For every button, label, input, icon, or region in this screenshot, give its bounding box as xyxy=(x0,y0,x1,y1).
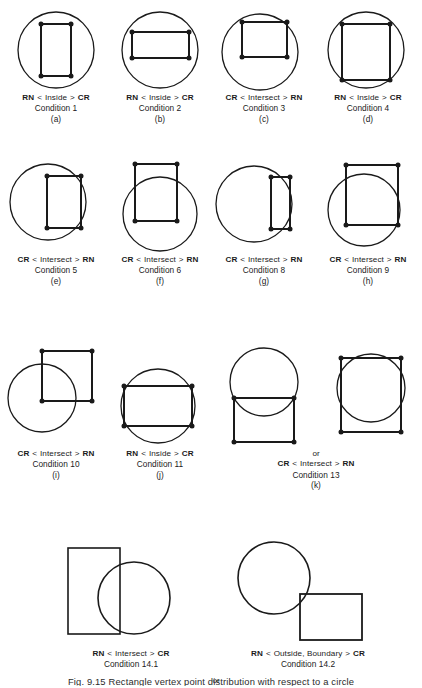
right-code-c: RN xyxy=(291,93,303,102)
relation-line-b: RN < Inside > CR xyxy=(110,93,210,103)
diagram-14-2 xyxy=(228,536,388,648)
less-than-j: < xyxy=(141,449,147,458)
caption-c: CR < Intersect > RN Condition 3 (c) xyxy=(214,93,314,125)
right-code-14-1: CR xyxy=(158,649,170,658)
caption-i: CR < Intersect > RN Condition 10 (i) xyxy=(6,449,106,481)
condition-label-j: Condition 11 xyxy=(110,459,210,470)
condition-label-h: Condition 9 xyxy=(318,265,418,276)
panel-j: RN < Inside > CR Condition 11 (j) xyxy=(110,338,210,481)
left-code-i: CR xyxy=(17,449,29,458)
circle-shape xyxy=(328,174,400,246)
less-than-i: < xyxy=(32,449,38,458)
relation-b: Inside xyxy=(149,93,171,102)
less-than-a: < xyxy=(37,93,43,102)
panel-letter-g: (g) xyxy=(214,276,314,287)
rectangle-shape xyxy=(341,358,401,432)
panel-letter-c: (c) xyxy=(214,114,314,125)
figure-sheet: RN < Inside > CR Condition 1 (a) RN xyxy=(0,0,422,688)
greater-than-d: > xyxy=(381,93,387,102)
rectangle-shape xyxy=(42,351,92,401)
left-code-b: RN xyxy=(126,93,138,102)
condition-label-g: Condition 8 xyxy=(214,265,314,276)
left-code-14-1: RN xyxy=(92,649,104,658)
diagram-a-svg xyxy=(6,4,106,92)
panel-letter-j: (j) xyxy=(110,470,210,481)
caption-k: or CR < Intersect > RN Condition 13 (k) xyxy=(214,449,418,491)
greater-than-h: > xyxy=(386,255,392,264)
less-than-14-1: < xyxy=(107,649,113,658)
condition-label-k: Condition 13 xyxy=(214,470,418,481)
rectangle-shape xyxy=(346,165,398,225)
condition-label-14-1: Condition 14.1 xyxy=(56,659,206,670)
relation-line-g: CR < Intersect > RN xyxy=(214,255,314,265)
panel-letter-e: (e) xyxy=(6,276,106,287)
rectangle-shape xyxy=(135,164,177,221)
less-than-h: < xyxy=(344,255,350,264)
left-code-d: RN xyxy=(334,93,346,102)
right-code-h: RN xyxy=(395,255,407,264)
diagram-f xyxy=(110,152,210,254)
less-than-e: < xyxy=(32,255,38,264)
panel-h: CR < Intersect > RN Condition 9 (h) xyxy=(318,152,418,287)
panel-f: CR < Intersect > RN Condition 6 (f) xyxy=(110,152,210,287)
diagram-14-2-svg xyxy=(228,536,388,648)
vertex-dots xyxy=(232,396,297,445)
diagram-14-1-svg xyxy=(56,536,206,648)
panel-k: or CR < Intersect > RN Condition 13 (k) xyxy=(214,338,418,491)
diagram-c xyxy=(214,4,314,92)
relation-f: Intersect xyxy=(144,255,176,264)
condition-label-d: Condition 4 xyxy=(318,103,418,114)
caption-h: CR < Intersect > RN Condition 9 (h) xyxy=(318,255,418,287)
condition-label-14-2: Condition 14.2 xyxy=(228,659,388,670)
panel-condition-14-2: RN < Outside, Boundary > CR Condition 14… xyxy=(228,536,388,670)
rectangle-shape xyxy=(242,22,287,57)
panel-i: CR < Intersect > RN Condition 10 (i) xyxy=(6,338,106,481)
greater-than-i: > xyxy=(74,449,80,458)
greater-than-a: > xyxy=(69,93,75,102)
less-than-g: < xyxy=(240,255,246,264)
panel-g: CR < Intersect > RN Condition 8 (g) xyxy=(214,152,314,287)
diagram-d xyxy=(318,4,418,92)
diagram-i xyxy=(6,338,106,448)
caption-14-2: RN < Outside, Boundary > CR Condition 14… xyxy=(228,649,388,670)
right-code-j: CR xyxy=(182,449,194,458)
relation-line-k: CR < Intersect > RN xyxy=(214,459,418,469)
relation-line-i: CR < Intersect > RN xyxy=(6,449,106,459)
less-than-k: < xyxy=(292,459,298,468)
less-than-d: < xyxy=(349,93,355,102)
panel-b: RN < Inside > CR Condition 2 (b) xyxy=(110,4,210,125)
rectangle-shape xyxy=(300,594,362,640)
diagram-j-svg xyxy=(110,338,210,448)
right-code-14-2: CR xyxy=(353,649,365,658)
less-than-14-2: < xyxy=(265,649,271,658)
relation-14-1: Intersect xyxy=(115,649,147,658)
greater-than-c: > xyxy=(282,93,288,102)
panel-letter-b: (b) xyxy=(110,114,210,125)
vertex-dots xyxy=(340,22,393,83)
diagram-j xyxy=(110,338,210,448)
diagram-b xyxy=(110,4,210,92)
caption-f: CR < Intersect > RN Condition 6 (f) xyxy=(110,255,210,287)
relation-14-2: Outside, Boundary xyxy=(274,649,343,658)
relation-g: Intersect xyxy=(248,255,280,264)
left-code-c: CR xyxy=(225,93,237,102)
panel-e: CR < Intersect > RN Condition 5 (e) xyxy=(6,152,106,287)
greater-than-e: > xyxy=(74,255,80,264)
condition-label-f: Condition 6 xyxy=(110,265,210,276)
condition-label-a: Condition 1 xyxy=(6,103,106,114)
greater-than-f: > xyxy=(178,255,184,264)
circle-shape xyxy=(98,562,170,634)
greater-than-j: > xyxy=(173,449,179,458)
left-code-f: CR xyxy=(121,255,133,264)
vertex-dots xyxy=(122,384,195,429)
caption-g: CR < Intersect > RN Condition 8 (g) xyxy=(214,255,314,287)
diagram-h-svg xyxy=(318,152,418,254)
greater-than-b: > xyxy=(173,93,179,102)
rectangle-shape xyxy=(124,386,192,426)
rectangle-shape xyxy=(47,176,81,228)
greater-than-g: > xyxy=(282,255,288,264)
vertex-dots xyxy=(130,30,192,61)
panel-letter-h: (h) xyxy=(318,276,418,287)
panel-letter-k: (k) xyxy=(214,480,418,491)
relation-c: Intersect xyxy=(248,93,280,102)
